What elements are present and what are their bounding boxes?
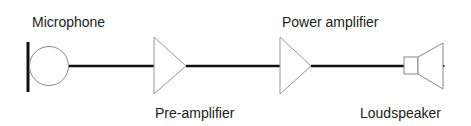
loudspeaker-label: Loudspeaker bbox=[360, 105, 441, 121]
power-amplifier-label: Power amplifier bbox=[282, 14, 378, 30]
microphone-icon bbox=[28, 42, 69, 92]
pre-amplifier-label: Pre-amplifier bbox=[155, 105, 234, 121]
pre-amplifier-icon bbox=[154, 37, 186, 94]
microphone-label: Microphone bbox=[32, 14, 105, 30]
power-amplifier-icon bbox=[280, 37, 311, 94]
loudspeaker-icon bbox=[404, 43, 445, 89]
